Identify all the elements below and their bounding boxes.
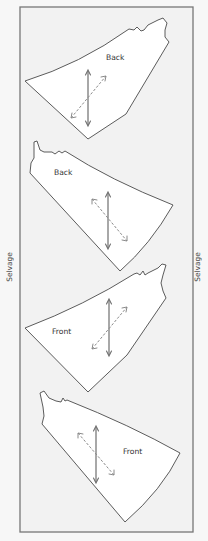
- piece-label: Front: [52, 327, 71, 336]
- piece-label: Back: [106, 53, 125, 62]
- selvage-left-label: Selvage: [5, 252, 14, 282]
- selvage-right: Selvage: [193, 252, 202, 282]
- cutting-layout-diagram: Selvage Selvage Back Back Front: [0, 0, 208, 541]
- selvage-right-label: Selvage: [193, 252, 202, 282]
- selvage-left: Selvage: [5, 252, 14, 282]
- piece-label: Back: [54, 168, 73, 177]
- piece-label: Front: [123, 447, 142, 456]
